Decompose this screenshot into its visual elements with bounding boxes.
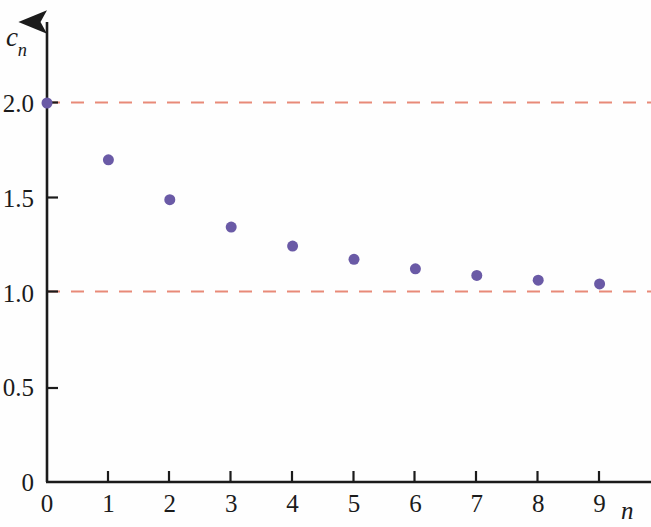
data-point bbox=[533, 275, 544, 286]
data-point bbox=[164, 194, 175, 205]
x-tick-label: 6 bbox=[409, 491, 422, 516]
y-tick-label: 1.5 bbox=[3, 185, 34, 210]
x-tick-label: 4 bbox=[286, 491, 299, 516]
y-axis-ticks bbox=[47, 103, 58, 389]
scatter-plot-canvas bbox=[0, 0, 651, 527]
data-point-group bbox=[42, 98, 606, 290]
reference-lines bbox=[47, 103, 651, 292]
x-tick-label: 2 bbox=[164, 491, 177, 516]
axes-lines bbox=[46, 22, 651, 482]
y-axis-label-main: c bbox=[6, 22, 18, 52]
data-point bbox=[287, 241, 298, 252]
data-point bbox=[103, 154, 114, 165]
y-axis-label-subscript: n bbox=[18, 40, 27, 60]
data-point bbox=[594, 278, 605, 289]
y-tick-label: 1.0 bbox=[3, 280, 34, 305]
x-tick-label: 7 bbox=[471, 491, 484, 516]
data-point bbox=[349, 254, 360, 265]
data-point bbox=[471, 270, 482, 281]
data-point bbox=[226, 222, 237, 233]
x-tick-label: 0 bbox=[41, 491, 54, 516]
x-tick-label: 5 bbox=[348, 491, 361, 516]
x-tick-label: 8 bbox=[532, 491, 545, 516]
y-tick-label: 2.0 bbox=[3, 91, 34, 116]
y-tick-label: 0 bbox=[22, 470, 35, 495]
x-tick-label: 3 bbox=[225, 491, 238, 516]
chart-figure: cn n 00.51.01.52.0 0123456789 bbox=[0, 0, 651, 527]
x-tick-label: 1 bbox=[102, 491, 115, 516]
x-tick-label: 9 bbox=[593, 491, 606, 516]
data-point bbox=[410, 263, 421, 274]
y-tick-label: 0.5 bbox=[3, 375, 34, 400]
data-point bbox=[42, 98, 53, 109]
x-axis-label: n bbox=[621, 498, 634, 523]
x-axis-ticks bbox=[108, 471, 599, 482]
y-axis-label: cn bbox=[6, 24, 27, 56]
